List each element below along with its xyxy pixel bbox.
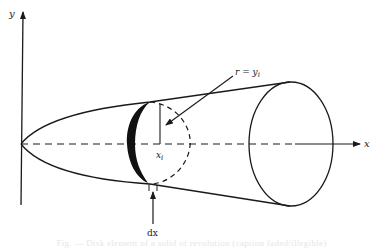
disk-element (127, 102, 150, 183)
figure-caption: Fig. — Disk element of a solid of revolu… (0, 238, 383, 248)
x-axis-label: x (364, 138, 370, 149)
y-axis (21, 12, 23, 205)
y-axis-label: y (8, 8, 15, 19)
disk-position-label: xi (156, 150, 163, 162)
radius-pointer-arrow (166, 76, 233, 125)
radius-label: r = yi (235, 67, 260, 79)
solid-of-revolution-diagram: y x r = yi xi dx (0, 0, 383, 251)
disk-dashed-outline (150, 102, 190, 184)
dx-label: dx (147, 228, 158, 238)
